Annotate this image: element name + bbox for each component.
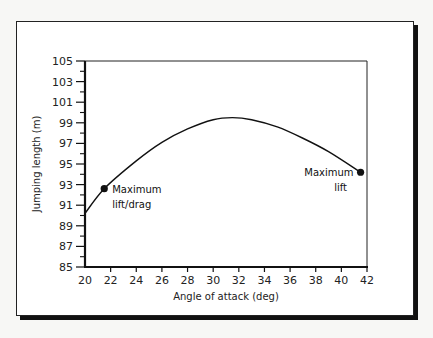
y-tick-label: 105 — [52, 55, 73, 68]
y-tick-label: 95 — [59, 158, 73, 171]
x-tick-label: 36 — [283, 274, 297, 287]
marker-point — [357, 169, 364, 176]
x-tick-label: 32 — [232, 274, 246, 287]
x-axis-title: Angle of attack (deg) — [173, 291, 279, 302]
x-tick-label: 20 — [78, 274, 92, 287]
y-axis-title: Jumping length (m) — [31, 116, 42, 214]
y-tick-label: 101 — [52, 96, 73, 109]
y-tick-label: 89 — [59, 220, 73, 233]
y-tick-label: 87 — [59, 240, 73, 253]
annotation-label: Maximum — [304, 167, 353, 178]
annotation-label: lift — [334, 182, 347, 193]
y-axis-ticks: 8587899193959799101103105 — [52, 55, 85, 274]
x-tick-label: 26 — [155, 274, 169, 287]
x-tick-label: 38 — [309, 274, 323, 287]
y-tick-label: 93 — [59, 179, 73, 192]
x-tick-label: 30 — [206, 274, 220, 287]
y-tick-label: 85 — [59, 261, 73, 274]
x-tick-label: 28 — [181, 274, 195, 287]
line-chart: 202224262830323436384042 858789919395979… — [0, 0, 433, 338]
annotation-label: lift/drag — [112, 199, 151, 210]
annotation-label: Maximum — [112, 184, 161, 195]
marker-point — [101, 185, 108, 192]
x-tick-label: 24 — [129, 274, 143, 287]
y-tick-label: 99 — [59, 117, 73, 130]
annotations: Maximumlift/dragMaximumlift — [101, 167, 365, 209]
x-tick-label: 22 — [104, 274, 118, 287]
y-tick-label: 97 — [59, 137, 73, 150]
x-tick-label: 42 — [360, 274, 374, 287]
y-tick-label: 91 — [59, 199, 73, 212]
x-tick-label: 40 — [334, 274, 348, 287]
x-tick-label: 34 — [257, 274, 271, 287]
y-tick-label: 103 — [52, 76, 73, 89]
x-axis-ticks: 202224262830323436384042 — [78, 267, 374, 287]
